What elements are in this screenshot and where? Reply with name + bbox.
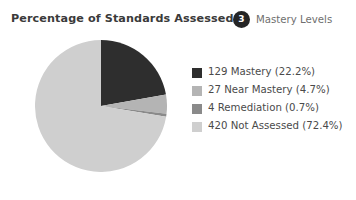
- pie-slice-group: [35, 40, 167, 172]
- numbered-circle-badge-icon: 3: [233, 11, 250, 28]
- legend-color-swatch: [192, 86, 202, 96]
- legend-item-label: 4 Remediation (0.7%): [208, 103, 319, 113]
- legend-color-swatch: [192, 122, 202, 132]
- mastery-levels-label: Mastery Levels: [256, 14, 332, 25]
- legend-item-label: 129 Mastery (22.2%): [208, 67, 315, 77]
- chart-legend: 129 Mastery (22.2%)27 Near Mastery (4.7%…: [192, 66, 343, 133]
- legend-item[interactable]: 420 Not Assessed (72.4%): [192, 120, 343, 133]
- legend-item[interactable]: 129 Mastery (22.2%): [192, 66, 343, 79]
- pie-chart: [35, 40, 167, 172]
- mastery-levels-header: 3 Mastery Levels: [233, 11, 332, 28]
- mastery-levels-pie-widget: Percentage of Standards Assessed 3 Maste…: [0, 0, 356, 200]
- pie-chart-svg: [35, 40, 167, 172]
- legend-item[interactable]: 4 Remediation (0.7%): [192, 102, 343, 115]
- legend-item-label: 27 Near Mastery (4.7%): [208, 85, 330, 95]
- legend-color-swatch: [192, 68, 202, 78]
- legend-item-label: 420 Not Assessed (72.4%): [208, 121, 343, 131]
- pie-slice[interactable]: [101, 40, 166, 106]
- legend-item[interactable]: 27 Near Mastery (4.7%): [192, 84, 343, 97]
- legend-color-swatch: [192, 104, 202, 114]
- page-title: Percentage of Standards Assessed: [11, 12, 234, 25]
